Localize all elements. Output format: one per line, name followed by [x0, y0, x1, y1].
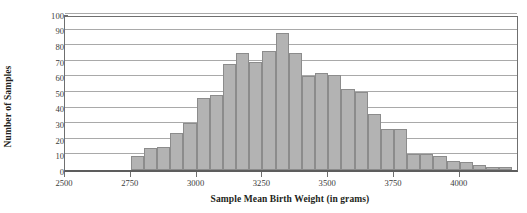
- histogram-bar: [460, 162, 473, 170]
- y-tick-label-20: 20: [38, 137, 64, 146]
- histogram-bar: [473, 165, 486, 170]
- histogram-bar: [341, 89, 354, 170]
- histogram-bar: [368, 114, 381, 170]
- plot-area: [64, 16, 518, 172]
- y-tick-label-80: 80: [38, 43, 64, 52]
- histogram-bar: [315, 73, 328, 170]
- y-tick-label-50: 50: [38, 90, 64, 99]
- y-tick-label-0: 0: [38, 168, 64, 177]
- y-tick-label-70: 70: [38, 59, 64, 68]
- y-tick-label-100: 100: [38, 12, 64, 21]
- histogram-bar: [355, 92, 368, 170]
- histogram-bar: [197, 98, 210, 170]
- histogram-bar: [407, 154, 420, 170]
- histogram-bar: [157, 147, 170, 170]
- x-tick-mark-4000: [459, 172, 460, 177]
- histogram-bar: [223, 64, 236, 170]
- y-tick-label-60: 60: [38, 74, 64, 83]
- histogram-bar: [170, 133, 183, 170]
- x-tick-mark-3500: [327, 172, 328, 177]
- histogram-bar: [144, 148, 157, 170]
- histogram-bar: [433, 156, 446, 170]
- x-tick-mark-3750: [393, 172, 394, 177]
- histogram-bar: [486, 167, 499, 170]
- y-tick-label-10: 10: [38, 152, 64, 161]
- histogram-bar: [302, 76, 315, 170]
- histogram-bar: [447, 161, 460, 170]
- x-axis-tick-group: 2500275030003250350037504000: [64, 172, 518, 194]
- x-tick-mark-2750: [130, 172, 131, 177]
- x-tick-label-4000: 4000: [439, 178, 479, 188]
- bar-series: [65, 17, 517, 170]
- histogram-bar: [276, 33, 289, 170]
- x-tick-label-3000: 3000: [176, 178, 216, 188]
- histogram-bar: [328, 75, 341, 170]
- histogram-bar: [183, 123, 196, 170]
- histogram-figure: Number of Samples 0102030405060708090100…: [0, 0, 527, 213]
- y-tick-label-90: 90: [38, 27, 64, 36]
- histogram-bar: [210, 95, 223, 170]
- x-axis-title: Sample Mean Birth Weight (in grams): [60, 194, 520, 204]
- histogram-bar: [262, 51, 275, 170]
- histogram-bar: [131, 156, 144, 170]
- histogram-bar: [394, 129, 407, 170]
- histogram-bar: [381, 129, 394, 170]
- x-tick-mark-3000: [196, 172, 197, 177]
- y-tick-label-40: 40: [38, 105, 64, 114]
- x-tick-label-3750: 3750: [373, 178, 413, 188]
- histogram-bar: [289, 53, 302, 170]
- histogram-bar: [499, 167, 512, 170]
- x-tick-mark-3250: [261, 172, 262, 177]
- y-tick-label-30: 30: [38, 121, 64, 130]
- histogram-bar: [249, 62, 262, 170]
- x-tick-label-3250: 3250: [241, 178, 281, 188]
- x-tick-label-2750: 2750: [110, 178, 150, 188]
- histogram-bar: [420, 154, 433, 170]
- x-tick-label-3500: 3500: [307, 178, 347, 188]
- gridline-y-100: [65, 13, 517, 14]
- y-axis-title: Number of Samples: [0, 0, 16, 213]
- histogram-bar: [236, 53, 249, 170]
- x-tick-mark-2500: [64, 172, 65, 177]
- x-tick-label-2500: 2500: [44, 178, 84, 188]
- y-axis-tick-group: 0102030405060708090100: [32, 16, 64, 172]
